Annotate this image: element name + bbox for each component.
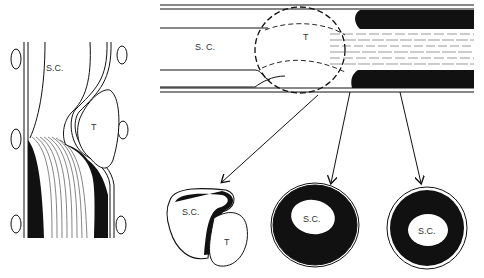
label-sc-top: S. C. [195, 42, 215, 52]
arrow-icon [331, 92, 350, 183]
label-sc-cs2: S.C. [303, 214, 321, 224]
vertebra-oval [11, 49, 21, 69]
vertebra-oval [117, 46, 127, 64]
arrows [222, 92, 421, 183]
arrow-icon [400, 92, 421, 183]
vertebra-oval [11, 215, 21, 233]
top-longitudinal-view: S. C. T [160, 5, 474, 93]
arrow-icon [222, 95, 318, 182]
label-sc-cs3: S.C. [418, 226, 436, 236]
vertebra-oval [118, 121, 128, 139]
diagram-canvas: S.C. T S. C. T [0, 0, 484, 278]
label-t-left: T [91, 122, 97, 132]
left-longitudinal-view: S.C. T [11, 42, 128, 238]
label-sc-left: S.C. [46, 63, 64, 73]
vertebra-oval [116, 216, 126, 234]
cross-section-2: S.C. [271, 183, 359, 267]
label-t-cs1: T [224, 237, 230, 247]
cross-section-3: S.C. [387, 187, 467, 269]
label-sc-cs1: S.C. [182, 207, 200, 217]
tumor-outline [255, 7, 345, 93]
vertebra-oval [11, 129, 21, 149]
cross-section-1: S.C. T [167, 189, 247, 267]
label-t-top: T [303, 32, 309, 42]
